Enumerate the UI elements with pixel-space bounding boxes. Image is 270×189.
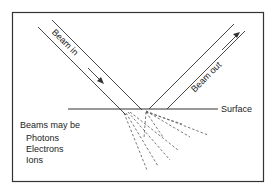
legend-list: Photons Electrons Ions (26, 133, 64, 166)
scattered-rays (124, 111, 208, 170)
surface-label: Surface (221, 104, 252, 115)
beam-out-arrow-icon (222, 32, 240, 50)
legend-heading: Beams may be (20, 120, 80, 131)
legend-item-electrons: Electrons (26, 144, 64, 155)
beam-out (149, 24, 245, 109)
legend-item-photons: Photons (26, 133, 64, 144)
beam-in-arrow-icon (88, 68, 104, 84)
legend-item-ions: Ions (26, 155, 64, 166)
